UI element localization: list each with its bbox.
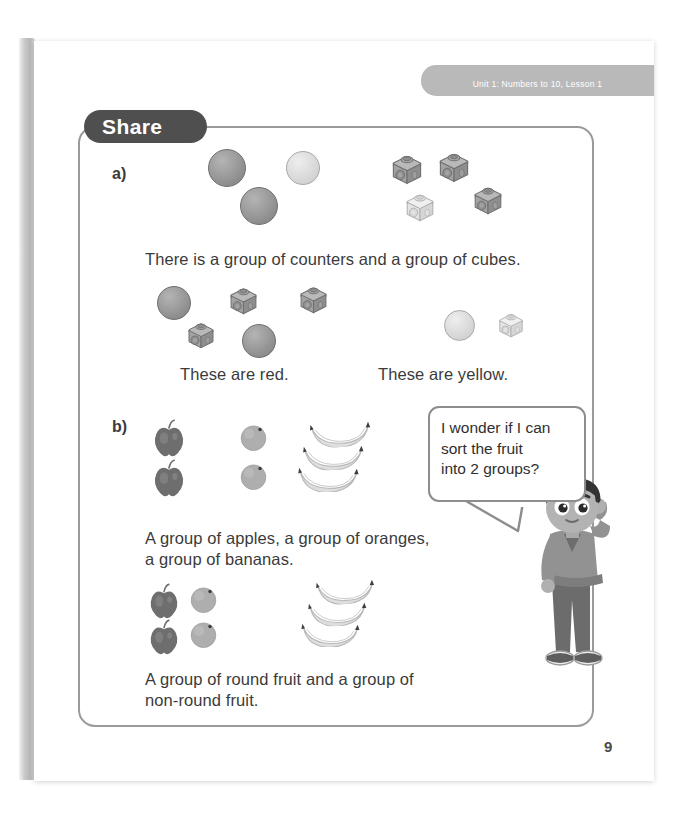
counter-disc-icon: [157, 286, 191, 320]
speech-line-1: I wonder if I can: [441, 418, 583, 439]
linking-cube-icon: [437, 150, 471, 184]
counter-disc-icon: [444, 310, 475, 341]
part-label-a: a): [112, 165, 126, 183]
counter-disc-icon: [240, 187, 278, 225]
linking-cube-icon: [186, 320, 216, 350]
speech-line-3: into 2 groups?: [441, 459, 583, 480]
caption-counters-and-cubes: There is a group of counters and a group…: [145, 248, 575, 270]
caption-these-are-red: These are red.: [180, 363, 289, 385]
apple-icon: [148, 583, 180, 621]
counter-disc-icon: [242, 324, 276, 358]
orange-icon: [189, 585, 218, 614]
speech-bubble-text: I wonder if I can sort the fruit into 2 …: [441, 418, 583, 480]
linking-cube-icon: [404, 191, 436, 223]
share-label: Share: [102, 115, 162, 139]
apple-icon: [152, 459, 186, 499]
apple-icon: [152, 419, 186, 459]
book-spine-shadow: [19, 38, 35, 780]
caption-groups-by-type-line1: A group of apples, a group of oranges,: [145, 527, 475, 549]
caption-groups-by-shape-line1: A group of round fruit and a group of: [145, 668, 505, 690]
unit-lesson-tab: Unit 1: Numbers to 10, Lesson 1: [421, 65, 654, 96]
orange-icon: [189, 620, 218, 649]
linking-cube-icon: [298, 284, 329, 315]
caption-groups-by-type-line2: a group of bananas.: [145, 548, 475, 570]
counter-disc-icon: [286, 151, 320, 185]
thinking-boy-character: [516, 474, 628, 676]
counter-disc-icon: [208, 149, 246, 187]
orange-icon: [239, 423, 268, 452]
linking-cube-icon: [390, 152, 424, 186]
banana-icon: [298, 622, 362, 647]
apple-icon: [148, 619, 180, 657]
orange-icon: [239, 462, 268, 491]
scanned-page-area: Unit 1: Numbers to 10, Lesson 1 Share a)…: [0, 0, 689, 817]
banana-icon: [295, 466, 361, 492]
caption-groups-by-shape-line2: non-round fruit.: [145, 689, 505, 711]
linking-cube-icon: [497, 311, 525, 339]
speech-line-2: sort the fruit: [441, 439, 583, 460]
speech-bubble: I wonder if I can sort the fruit into 2 …: [428, 406, 586, 502]
linking-cube-icon: [472, 184, 504, 216]
unit-tab-label: Unit 1: Numbers to 10, Lesson 1: [473, 79, 603, 89]
part-label-b: b): [112, 418, 127, 436]
share-section-banner: Share: [84, 110, 207, 143]
linking-cube-icon: [228, 285, 259, 316]
caption-these-are-yellow: These are yellow.: [378, 363, 508, 385]
page-number: 9: [604, 738, 612, 755]
